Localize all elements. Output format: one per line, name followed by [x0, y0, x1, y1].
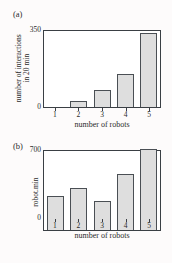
- panel-b-y-axis-title: robot.min: [32, 157, 40, 227]
- x-tick-label-1: 1: [48, 221, 62, 230]
- panel-b-y-max-tick-label: 700: [21, 145, 41, 154]
- panel-a-y-axis-title: number of interactions in 20 min: [15, 29, 31, 107]
- x-tick-label-5: 5: [142, 221, 156, 230]
- figure-two-bar-charts: (a) 350 0 number of interactions in 20 m…: [0, 0, 172, 263]
- x-tick-label-4: 4: [119, 221, 133, 230]
- x-tick-label-2: 2: [71, 110, 85, 119]
- panel-a-y-axis-title-line2: in 20 min: [23, 29, 31, 107]
- x-tick-label-1: 1: [48, 110, 62, 119]
- panel-a-tag: (a): [13, 9, 22, 19]
- bar-slot: [67, 31, 90, 107]
- x-tick-label-4: 4: [119, 110, 133, 119]
- bar-3: [94, 90, 111, 107]
- bar-slot: [90, 31, 113, 107]
- bar-slot: [137, 31, 160, 107]
- panel-b-x-axis-title: number of robots: [43, 231, 161, 240]
- x-tick-label-3: 3: [95, 110, 109, 119]
- panel-a-x-axis-title: number of robots: [43, 120, 161, 129]
- panel-b-y-axis-title-line1: robot.min: [32, 157, 40, 227]
- bar-5: [140, 149, 157, 230]
- panel-a: (a) 350 0 number of interactions in 20 m…: [0, 0, 172, 131]
- x-tick-label-5: 5: [142, 110, 156, 119]
- x-tick-label-2: 2: [71, 221, 85, 230]
- bar-2: [70, 101, 87, 107]
- bar-5: [140, 33, 157, 107]
- x-tick-label-3: 3: [95, 221, 109, 230]
- panel-a-bar-group: [44, 31, 160, 107]
- bar-slot: [114, 31, 137, 107]
- bar-slot: [44, 31, 67, 107]
- bar-4: [117, 74, 134, 107]
- panel-a-plot-area: [43, 30, 161, 108]
